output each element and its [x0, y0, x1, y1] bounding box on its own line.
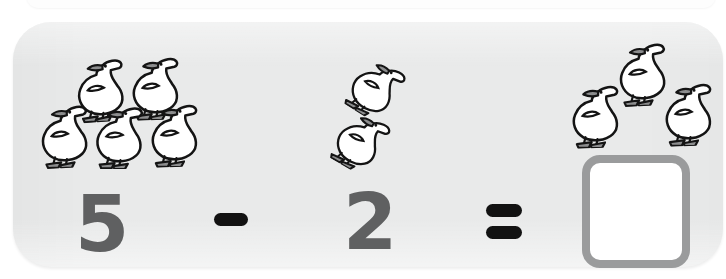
subtrahend-numeral: 2	[343, 183, 396, 261]
subtraction-problem-card: 5 2	[13, 22, 723, 267]
equation-row: 5 2	[13, 22, 723, 267]
answer-input-box[interactable]	[582, 155, 690, 268]
previous-card-edge	[26, 0, 716, 8]
minuend-numeral: 5	[75, 185, 128, 263]
equals-bar-top	[486, 204, 522, 217]
equals-operator	[486, 204, 522, 239]
equals-bar-bottom	[486, 226, 522, 239]
minus-operator	[214, 213, 248, 226]
minus-bar	[214, 213, 248, 226]
